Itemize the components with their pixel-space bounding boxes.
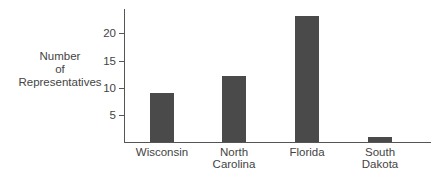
x-label-line: Carolina — [194, 158, 274, 170]
y-axis-line — [124, 9, 125, 143]
y-tick-label-5: 5 — [90, 109, 116, 121]
x-label-wisconsin: Wisconsin — [122, 146, 202, 158]
bar-florida — [295, 16, 319, 142]
y-tick-label-15: 15 — [90, 55, 116, 67]
y-tick-label-10: 10 — [90, 82, 116, 94]
x-label-line: North — [194, 146, 274, 158]
bar-south-dakota — [368, 137, 392, 142]
x-axis-line — [124, 142, 431, 143]
x-label-florida: Florida — [267, 146, 347, 158]
x-label-line: Florida — [267, 146, 347, 158]
x-label-line: Wisconsin — [122, 146, 202, 158]
x-label-south-dakota: South Dakota — [340, 146, 420, 170]
x-label-north-carolina: North Carolina — [194, 146, 274, 170]
y-tick-10 — [119, 88, 124, 89]
bar-north-carolina — [222, 76, 246, 142]
x-label-line: Dakota — [340, 158, 420, 170]
x-label-line: South — [340, 146, 420, 158]
y-tick-20 — [119, 33, 124, 34]
bar-wisconsin — [150, 93, 174, 142]
y-tick-label-20: 20 — [90, 27, 116, 39]
y-tick-5 — [119, 115, 124, 116]
bar-chart: Number of Representatives 5 10 15 20 Wis… — [0, 0, 441, 177]
y-tick-15 — [119, 61, 124, 62]
